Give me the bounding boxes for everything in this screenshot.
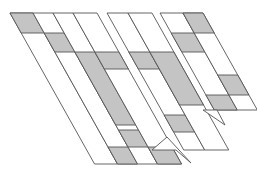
strip-pattern-diagram [0,0,257,173]
